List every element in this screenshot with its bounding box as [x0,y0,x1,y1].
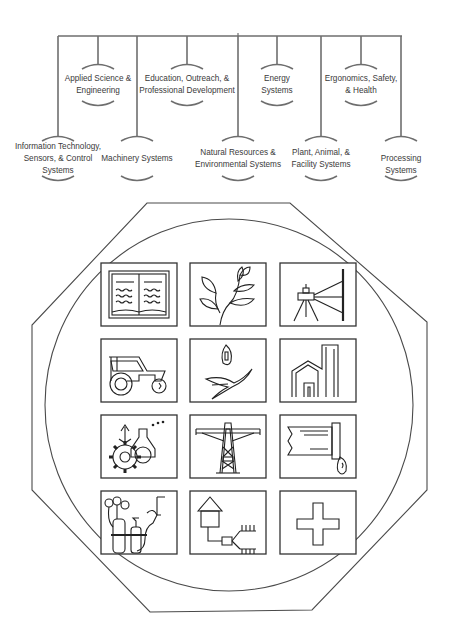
bracket-top-arc [305,137,337,142]
icon-tile-oil-derrick [190,415,266,478]
bracket-bottom-arc [305,176,337,181]
bracket-top-arc [261,65,293,70]
icon-tile-building-chimney [280,339,356,402]
bracket-top-arc [222,137,254,142]
bracket-bottom-arc [385,176,417,181]
bracket-bottom-arc [171,101,203,106]
icon-tile-open-book [101,263,177,326]
bracket-top-arc [121,137,153,142]
icon-tile-tractor [101,339,177,402]
bracket-bottom-arc [121,176,153,181]
bracket-top-arc [345,65,377,70]
bracket-bottom-arc [42,176,74,181]
category-label-pafs: Plant, Animal, & Facility Systems [291,147,350,171]
bracket-bottom-arc [261,101,293,106]
icon-tile-gears-and-flask [101,415,177,478]
icon-tile-surveying-level [280,263,356,326]
icon-tile-safety-cross [280,491,356,554]
category-label-energy: Energy Systems [261,73,292,97]
bracket-bottom-arc [82,101,114,106]
category-label-nat: Natural Resources & Environmental System… [195,147,281,171]
bracket-top-arc [171,65,203,70]
bracket-bottom-arc [345,101,377,106]
category-label-proc: Processing Systems [373,153,429,177]
icon-tile-house-waste-pipe [190,491,266,554]
icon-tile-gas-welding-tanks [101,491,177,554]
asabe-emblem [32,203,427,612]
bracket-top-arc [82,65,114,70]
icon-tile-seed-and-leaf [190,339,266,402]
bracket-top-arc [385,137,417,142]
category-label-mach: Machinery Systems [101,153,172,165]
category-label-ase: Applied Science & Engineering [65,73,131,97]
icon-tile-pipe-and-droplet [280,415,356,478]
category-label-esh: Ergonomics, Safety, & Health [325,73,398,97]
category-label-edu: Education, Outreach, & Professional Deve… [139,73,235,97]
icon-tile-plant [190,263,266,326]
bracket-bottom-arc [222,176,254,181]
category-label-it: Information Technology, Sensors, & Contr… [15,141,101,177]
